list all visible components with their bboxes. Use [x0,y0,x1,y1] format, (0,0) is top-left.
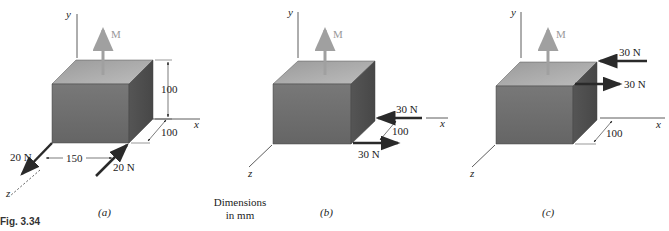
cube-front-face [52,84,129,143]
force-back-label: 30 N [396,103,418,115]
z-axis-label: z [469,167,475,179]
height-dimension: 100 [161,83,178,95]
force-left-label: 20 N [10,151,32,163]
figure-canvas: y M x z 100 100 20 N 20 N 150 y M x [0,0,669,231]
dimensions-note-line2: in mm [210,209,270,222]
z-axis [249,145,272,167]
moment-label: M [333,28,343,40]
dimensions-note-line1: Dimensions [210,196,270,209]
panel-a-label: (a) [98,206,111,218]
panel-a: y M x z 100 100 20 N 20 N 150 [5,8,200,199]
force-back-label: 30 N [619,46,641,58]
dimensions-note: Dimensions in mm [210,196,270,222]
cube-front-face [496,86,573,144]
force-right-label: 20 N [113,161,135,173]
depth-dimension: 100 [606,127,623,139]
figure-caption: Fig. 3.34 [0,216,40,227]
y-axis-label: y [287,6,293,18]
z-axis [10,170,40,196]
x-axis-label: x [439,117,445,129]
width-dimension: 150 [66,152,83,164]
z-axis-label: z [5,187,11,199]
z-axis [472,145,495,167]
panel-c: y M x z 30 N 30 N 100 [469,6,665,179]
panel-b: y M x z 30 N 30 N 100 [247,6,448,179]
moment-label: M [556,28,566,40]
x-axis-label: x [655,118,661,130]
force-front-label: 30 N [358,148,380,160]
panel-c-label: (c) [542,206,554,218]
z-axis-label: z [247,167,253,179]
depth-dimension: 100 [392,125,409,137]
cube-front-face [273,84,351,144]
y-axis-label: y [510,6,516,18]
depth-dimension: 100 [161,126,178,138]
moment-label: M [111,28,121,40]
x-axis-label: x [193,118,199,130]
force-front-label: 30 N [624,78,646,90]
panel-b-label: (b) [320,206,333,218]
y-axis-label: y [65,8,71,20]
